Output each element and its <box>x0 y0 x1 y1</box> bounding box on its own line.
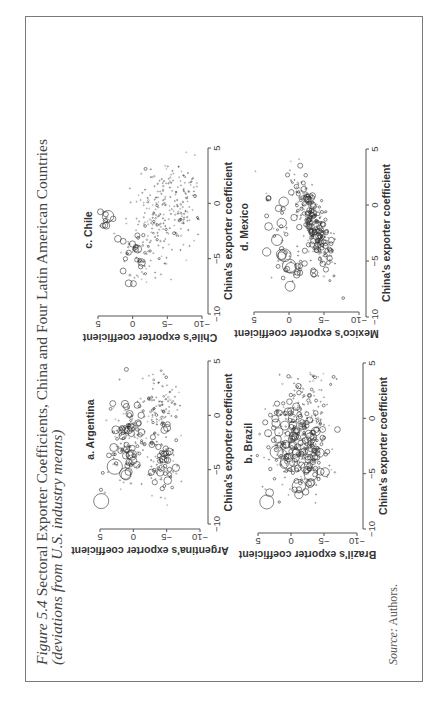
y-axis-title: Mexico's exporter coefficient <box>234 328 379 340</box>
panel-label: d. Mexico <box>238 203 250 251</box>
data-point <box>265 214 269 218</box>
data-point <box>301 207 303 209</box>
data-point <box>255 171 256 172</box>
data-point <box>333 233 334 234</box>
data-point <box>290 161 291 162</box>
data-point <box>299 218 300 219</box>
data-point <box>318 250 319 251</box>
data-point <box>265 223 273 231</box>
data-point <box>272 235 283 246</box>
data-point <box>308 251 309 252</box>
data-point <box>279 197 288 206</box>
data-point <box>298 201 299 202</box>
data-point <box>281 211 284 214</box>
data-point <box>289 170 290 171</box>
data-point <box>276 229 278 231</box>
data-point <box>306 243 310 247</box>
data-point <box>294 174 295 175</box>
data-point <box>282 259 296 273</box>
x-tick-label: −10 <box>369 309 380 325</box>
x-axis-title: China's exporter coefficient <box>380 164 392 302</box>
source-label: Source: <box>386 628 400 665</box>
data-point <box>299 187 300 188</box>
data-point <box>294 179 295 180</box>
data-point <box>316 212 320 216</box>
x-tick-label: 5 <box>369 146 380 151</box>
data-point <box>324 218 327 221</box>
data-point <box>329 259 331 261</box>
data-point <box>329 242 333 246</box>
data-point <box>320 258 321 259</box>
data-point <box>284 251 288 255</box>
data-point <box>333 275 335 277</box>
data-point <box>330 232 331 233</box>
data-point <box>326 256 327 257</box>
data-point <box>329 237 335 243</box>
x-tick-label: 0 <box>369 202 380 207</box>
data-point <box>285 281 295 291</box>
data-point <box>263 248 271 256</box>
data-point <box>286 173 290 177</box>
data-point <box>308 240 309 241</box>
data-point <box>290 261 291 262</box>
data-point <box>298 183 299 184</box>
data-point <box>286 227 287 228</box>
data-point <box>316 204 317 205</box>
y-tick-label: −10 <box>351 315 367 326</box>
data-point <box>328 237 329 238</box>
data-point <box>292 281 293 282</box>
data-point <box>315 231 316 232</box>
data-point <box>320 210 323 213</box>
data-point <box>300 197 301 198</box>
data-point <box>299 260 302 263</box>
data-point <box>327 231 328 232</box>
data-point <box>329 280 331 282</box>
data-point <box>297 224 302 229</box>
data-point <box>278 260 279 261</box>
data-point <box>290 271 291 272</box>
y-tick-label: 0 <box>286 315 291 326</box>
data-point <box>302 248 307 253</box>
data-point <box>323 267 328 272</box>
data-point <box>334 263 335 264</box>
figure-page: Figure 5.4 Sectoral Exporter Coefficient… <box>25 16 423 682</box>
data-point <box>303 235 304 236</box>
data-point <box>286 228 287 229</box>
data-point <box>283 232 284 233</box>
data-point <box>318 275 319 276</box>
source-text: Authors. <box>386 584 400 626</box>
data-point <box>320 216 321 217</box>
data-point <box>322 231 323 232</box>
data-point <box>326 261 330 265</box>
data-point <box>290 180 291 181</box>
data-point <box>280 209 281 210</box>
data-point <box>298 251 299 252</box>
data-point <box>297 255 298 256</box>
data-point <box>304 173 308 177</box>
data-point <box>296 192 300 196</box>
data-point <box>275 205 282 212</box>
data-point <box>294 274 295 275</box>
data-point <box>295 203 296 204</box>
data-point <box>326 258 327 259</box>
data-point <box>322 240 323 241</box>
data-point <box>318 206 320 208</box>
data-point <box>292 182 294 184</box>
data-point <box>311 184 312 185</box>
data-point <box>279 247 283 251</box>
data-point <box>314 210 315 211</box>
data-point <box>289 256 290 257</box>
data-point <box>296 187 297 188</box>
x-tick-label: −5 <box>369 256 380 267</box>
data-point <box>297 182 298 183</box>
data-point <box>331 261 332 262</box>
data-point <box>304 209 305 210</box>
source-note: Source: Authors. <box>386 584 401 665</box>
data-point <box>291 214 297 220</box>
data-point <box>273 228 274 229</box>
data-point <box>342 297 345 300</box>
data-point <box>284 233 288 237</box>
data-point <box>323 276 325 278</box>
y-tick-label: 5 <box>251 315 256 326</box>
data-point <box>305 216 306 217</box>
